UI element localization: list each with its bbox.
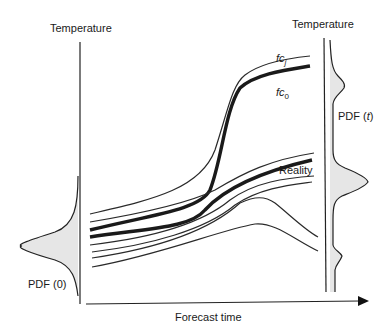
right-temperature-axis xyxy=(324,38,326,292)
fc0-label: fc0 xyxy=(276,86,289,101)
forecast-time-label: Forecast time xyxy=(175,311,242,323)
curve-member-3 xyxy=(92,198,318,258)
pdf-0-label: PDF (0) xyxy=(28,278,67,290)
curve-member-4 xyxy=(92,224,318,267)
fc0-subscript: 0 xyxy=(285,92,289,101)
forecast-time-axis xyxy=(86,301,360,304)
curve-fcj xyxy=(90,56,310,214)
time-axis-arrowhead xyxy=(358,296,369,306)
pdf-t-suffix: ) xyxy=(370,110,374,122)
fcj-subscript: j xyxy=(285,58,287,67)
pdf-t-prefix: PDF ( xyxy=(338,110,367,122)
left-axis-label: Temperature xyxy=(50,22,112,34)
right-axis-label: Temperature xyxy=(292,18,354,30)
curve-member-1 xyxy=(90,176,314,245)
fc0-base: fc xyxy=(276,86,285,98)
pdf-t-label: PDF (t) xyxy=(338,110,373,122)
pdf-t-fill xyxy=(330,40,368,292)
reality-label: Reality xyxy=(279,164,313,176)
fcj-base: fc xyxy=(276,52,285,64)
fcj-label: fcj xyxy=(276,52,286,67)
